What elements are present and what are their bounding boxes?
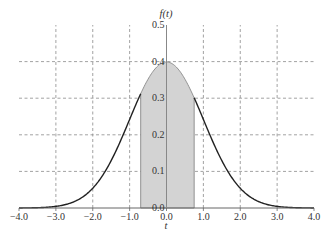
y-axis-title: f(t) [160,8,173,20]
x-tick-label: 3.0 [271,211,284,222]
x-tick-label: 1.0 [197,211,210,222]
x-tick-label: −4.0 [10,211,28,222]
y-tick-label: 0.2 [152,129,165,140]
x-tick-label: −2.0 [84,211,102,222]
shaded-area [141,62,194,208]
y-tick-label: 0.5 [152,19,165,30]
y-tick-label: 0.4 [152,56,165,67]
x-tick-label: −1.0 [121,211,139,222]
x-tick-label: 2.0 [234,211,247,222]
x-tick-label: −3.0 [47,211,65,222]
normal-distribution-chart: −4.0−3.0−2.0−1.00.01.02.03.04.0 0.00.10.… [0,0,329,236]
y-tick-label: 0.3 [152,92,165,103]
x-tick-label: 4.0 [308,211,321,222]
axes [19,25,314,211]
y-tick-label: 0.1 [152,165,165,176]
y-tick-label: 0.0 [152,202,165,213]
